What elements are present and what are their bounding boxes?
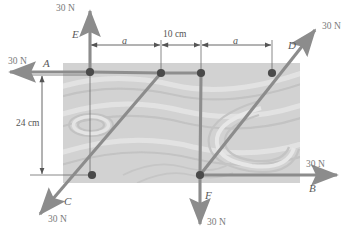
force-label-f-magnitude: 30 N bbox=[207, 218, 226, 228]
plate-body bbox=[63, 63, 300, 183]
force-label-e-magnitude: 30 N bbox=[56, 4, 75, 14]
node-d bbox=[268, 69, 276, 77]
force-label-d-magnitude: 30 N bbox=[322, 22, 341, 32]
point-label-f: F bbox=[205, 190, 212, 201]
dimension-label-24cm: 24 cm bbox=[16, 119, 39, 129]
node-f bbox=[196, 171, 204, 179]
point-label-a: A bbox=[43, 58, 50, 69]
force-label-b-magnitude: 30 N bbox=[306, 160, 325, 170]
force-label-c-magnitude: 30 N bbox=[48, 215, 67, 225]
dimension-label-10cm: 10 cm bbox=[163, 30, 186, 40]
member-midright-to-f bbox=[200, 73, 201, 175]
point-label-e: E bbox=[72, 29, 79, 40]
point-label-d: D bbox=[288, 40, 296, 51]
node-c bbox=[88, 171, 96, 179]
dimension-label-a-right: a bbox=[233, 36, 238, 46]
node-e bbox=[86, 68, 94, 76]
point-label-b: B bbox=[309, 183, 316, 194]
member-a-to-midleft bbox=[90, 72, 161, 73]
node-mid-left bbox=[157, 69, 165, 77]
point-label-c: C bbox=[64, 196, 71, 207]
force-diagram-figure: 30 N 30 N 30 N 30 N 30 N 30 N A B C D E … bbox=[0, 0, 349, 235]
force-label-a-magnitude: 30 N bbox=[8, 57, 27, 67]
dimension-label-a-left: a bbox=[122, 36, 127, 46]
node-mid-right bbox=[197, 69, 205, 77]
